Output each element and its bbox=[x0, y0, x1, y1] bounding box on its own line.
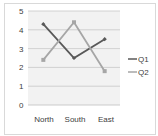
y-tick: 5 bbox=[19, 7, 24, 16]
data-point-marker bbox=[72, 20, 76, 24]
y-tick: 1 bbox=[19, 82, 24, 91]
legend-label-q1: Q1 bbox=[138, 55, 149, 64]
legend-label-q2: Q2 bbox=[138, 68, 149, 77]
data-point-marker bbox=[41, 58, 45, 62]
y-tick: 3 bbox=[19, 45, 24, 54]
data-point-marker bbox=[103, 69, 107, 73]
y-tick: 4 bbox=[19, 26, 24, 35]
x-tick: North bbox=[34, 115, 54, 124]
line-chart: 0 1 2 3 4 5 North South East Q1 Q2 bbox=[0, 0, 158, 136]
x-tick: South bbox=[65, 115, 86, 124]
x-tick: East bbox=[98, 115, 115, 124]
y-axis: 0 1 2 3 4 5 bbox=[19, 7, 24, 110]
legend: Q1 Q2 bbox=[128, 55, 149, 77]
y-tick: 2 bbox=[19, 63, 24, 72]
y-tick: 0 bbox=[19, 101, 24, 110]
x-axis: North South East bbox=[34, 115, 115, 124]
